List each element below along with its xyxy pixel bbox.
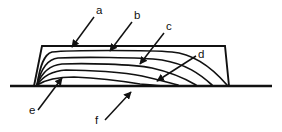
flow-line-5: [37, 77, 163, 86]
callout-label-b: b: [134, 9, 140, 21]
callout-label-a: a: [96, 4, 103, 16]
flow-line-3: [37, 64, 196, 85]
callout-label-d: d: [198, 48, 204, 60]
figure-container: a b c d e f: [0, 0, 282, 132]
leader-lines-group: [38, 17, 196, 120]
cross-section-diagram: a b c d e f: [0, 0, 282, 132]
callout-label-e: e: [29, 104, 35, 116]
callout-label-c: c: [166, 20, 172, 32]
leader-line-f: [105, 92, 131, 120]
callout-label-f: f: [95, 114, 99, 126]
leader-line-a: [72, 17, 94, 47]
